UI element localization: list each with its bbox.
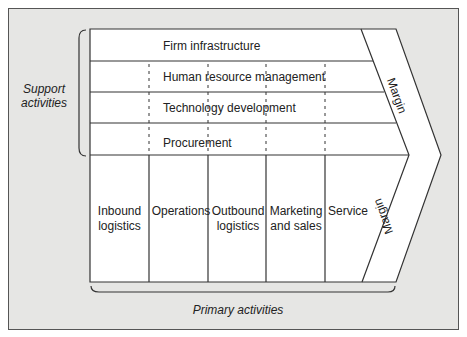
primary-activity-marketing-1: Marketing: [270, 204, 323, 218]
primary-activities-label: Primary activities: [193, 303, 284, 317]
support-activity-procurement: Procurement: [163, 136, 232, 150]
support-brace: [79, 30, 86, 156]
support-activity-technology: Technology development: [163, 101, 296, 115]
primary-activity-outbound-1: Outbound: [212, 204, 265, 218]
primary-brace: [91, 286, 395, 292]
support-activity-firm-infrastructure: Firm infrastructure: [163, 39, 261, 53]
support-activities-label-1: Support: [23, 82, 66, 96]
primary-activity-service: Service: [328, 204, 368, 218]
primary-activity-inbound-2: logistics: [98, 219, 141, 233]
primary-activity-outbound-2: logistics: [217, 219, 260, 233]
primary-activity-marketing-2: and sales: [270, 219, 321, 233]
primary-activity-inbound-1: Inbound: [98, 204, 141, 218]
support-activities-label-2: activities: [21, 96, 67, 110]
support-activity-hrm: Human resource management: [163, 70, 326, 84]
value-chain-diagram: Firm infrastructure Human resource manag…: [0, 0, 467, 337]
primary-activity-operations: Operations: [152, 204, 211, 218]
